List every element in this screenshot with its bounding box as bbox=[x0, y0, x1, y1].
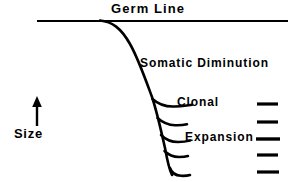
branch-2 bbox=[158, 118, 188, 125]
size-axis-arrow bbox=[32, 96, 42, 126]
germ-line-diagram: Germ Line Somatic Diminution Clonal Expa… bbox=[0, 0, 290, 182]
somatic-diminution-label: Somatic Diminution bbox=[140, 57, 269, 69]
expansion-label: Expansion bbox=[185, 131, 254, 143]
size-axis-label: Size bbox=[14, 127, 43, 140]
germ-line-label: Germ Line bbox=[111, 2, 185, 15]
right-dash-group bbox=[256, 104, 280, 172]
somatic-diminution-curve bbox=[100, 21, 172, 176]
clonal-label: Clonal bbox=[177, 96, 219, 108]
branch-4 bbox=[165, 151, 189, 157]
diagram-vector-layer bbox=[0, 0, 290, 182]
